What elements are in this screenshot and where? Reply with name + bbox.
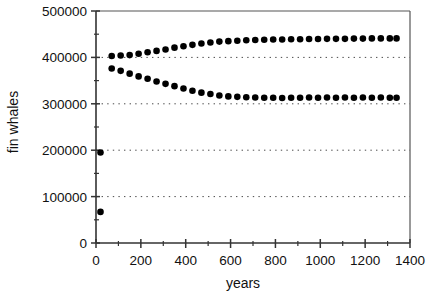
- x-tick-label-400: 400: [174, 253, 197, 268]
- data-point: [207, 91, 214, 98]
- data-point: [252, 37, 259, 44]
- data-point: [97, 209, 104, 216]
- data-point: [171, 83, 178, 90]
- data-point: [387, 35, 394, 42]
- x-tick-label-1000: 1000: [305, 253, 335, 268]
- data-point: [225, 38, 232, 45]
- data-point: [162, 81, 169, 88]
- data-point: [378, 35, 385, 42]
- data-point: [189, 42, 196, 49]
- data-point: [144, 75, 151, 82]
- data-point: [180, 43, 187, 50]
- data-point: [243, 37, 250, 44]
- data-point: [333, 94, 340, 101]
- y-tick-label-400000: 400000: [42, 50, 87, 65]
- data-point: [108, 53, 115, 60]
- data-point: [126, 70, 133, 77]
- fin-whales-scatter-chart: 0100000200000300000400000500000020040060…: [0, 0, 431, 300]
- data-point: [243, 94, 250, 101]
- data-point: [216, 38, 223, 45]
- data-point: [207, 39, 214, 46]
- data-point: [126, 52, 133, 59]
- x-tick-label-0: 0: [92, 253, 100, 268]
- data-point: [324, 94, 331, 101]
- data-point: [315, 94, 322, 101]
- data-point: [234, 94, 241, 101]
- data-point: [153, 78, 160, 85]
- data-point: [393, 35, 400, 42]
- data-point: [315, 36, 322, 43]
- x-axis-title: years: [226, 275, 260, 291]
- data-point: [288, 94, 295, 101]
- data-point: [117, 52, 124, 59]
- y-tick-label-300000: 300000: [42, 97, 87, 112]
- data-point: [153, 48, 160, 55]
- data-point: [351, 35, 358, 42]
- data-point: [180, 85, 187, 92]
- y-axis-title: fin whales: [5, 91, 21, 153]
- data-point: [225, 93, 232, 100]
- y-tick-label-0: 0: [79, 236, 87, 251]
- data-point: [171, 44, 178, 51]
- x-tick-label-200: 200: [130, 253, 153, 268]
- y-tick-label-100000: 100000: [42, 190, 87, 205]
- data-point: [297, 94, 304, 101]
- data-point: [378, 94, 385, 101]
- data-point: [279, 36, 286, 43]
- y-tick-label-500000: 500000: [42, 4, 87, 19]
- data-point: [360, 35, 367, 42]
- data-point: [342, 94, 349, 101]
- data-point: [162, 46, 169, 53]
- data-point: [360, 94, 367, 101]
- data-point: [324, 36, 331, 43]
- data-point: [261, 36, 268, 43]
- data-point: [234, 37, 241, 44]
- data-point: [252, 94, 259, 101]
- data-point: [144, 49, 151, 56]
- data-point: [306, 94, 313, 101]
- x-tick-label-800: 800: [264, 253, 287, 268]
- series-lower-branch: [97, 65, 400, 215]
- data-point: [270, 36, 277, 43]
- data-point: [270, 94, 277, 101]
- data-point: [97, 149, 104, 156]
- data-point: [117, 68, 124, 75]
- data-point: [198, 89, 205, 96]
- x-tick-label-1400: 1400: [395, 253, 425, 268]
- data-point: [189, 88, 196, 95]
- data-point: [369, 35, 376, 42]
- data-point: [198, 40, 205, 47]
- data-point: [351, 94, 358, 101]
- data-point: [135, 50, 142, 57]
- data-point: [387, 94, 394, 101]
- data-point: [108, 65, 115, 72]
- data-point: [306, 36, 313, 43]
- data-point: [135, 73, 142, 80]
- data-point: [288, 36, 295, 43]
- data-point: [279, 95, 286, 102]
- data-point: [333, 36, 340, 43]
- y-tick-label-200000: 200000: [42, 143, 87, 158]
- data-point: [216, 92, 223, 99]
- chart-canvas: 0100000200000300000400000500000020040060…: [0, 0, 431, 300]
- data-point: [369, 94, 376, 101]
- data-point: [393, 94, 400, 101]
- x-tick-label-1200: 1200: [350, 253, 380, 268]
- data-point: [261, 94, 268, 101]
- data-point: [297, 36, 304, 43]
- x-tick-label-600: 600: [219, 253, 242, 268]
- data-point: [342, 36, 349, 43]
